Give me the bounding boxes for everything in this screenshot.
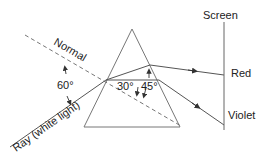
violet-arrow-icon bbox=[192, 103, 198, 107]
normal-label: Normal bbox=[52, 35, 89, 63]
violet-ray-exit bbox=[159, 80, 224, 125]
ray-label: Ray (white light) bbox=[10, 99, 81, 154]
angle-30-arrow-icon bbox=[137, 87, 138, 94]
angle-30-label: 30° bbox=[117, 80, 134, 92]
violet-label: Violet bbox=[228, 109, 255, 121]
prism-diagram: Screen Red Violet Normal Ray (white ligh… bbox=[0, 0, 264, 163]
red-arrow-icon bbox=[188, 70, 195, 71]
angle-60-arrow-up-icon bbox=[65, 68, 66, 74]
red-ray-inside bbox=[106, 65, 150, 80]
angle-60-label: 60° bbox=[57, 79, 74, 91]
screen-label: Screen bbox=[203, 9, 238, 21]
angle-45-label: 45° bbox=[141, 80, 158, 92]
diagram-canvas: Screen Red Violet Normal Ray (white ligh… bbox=[0, 0, 264, 163]
red-label: Red bbox=[231, 67, 251, 79]
red-ray-exit bbox=[150, 65, 224, 75]
